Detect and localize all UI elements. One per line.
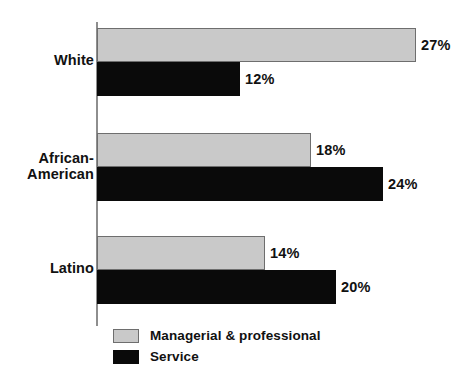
bar-african-american-managerial [97, 133, 311, 167]
bar-white-service [97, 62, 240, 96]
legend-swatch-service-icon [113, 350, 139, 364]
legend-item-service: Service [113, 346, 321, 367]
legend-item-managerial: Managerial & professional [113, 325, 321, 346]
bar-african-american-service [97, 167, 383, 201]
value-label-latino-service: 20% [341, 279, 371, 295]
bar-latino-managerial [97, 236, 265, 270]
bar-chart: White African- American Latino 27% 12% 1… [0, 0, 465, 383]
value-label-white-service: 12% [245, 71, 275, 87]
legend-label-managerial: Managerial & professional [150, 328, 321, 343]
chart-legend: Managerial & professional Service [113, 325, 321, 367]
value-label-latino-managerial: 14% [270, 245, 300, 261]
value-label-white-managerial: 27% [421, 37, 451, 53]
bar-white-managerial [97, 28, 416, 62]
legend-label-service: Service [150, 349, 199, 364]
category-label-white: White [54, 52, 94, 68]
bar-latino-service [97, 270, 336, 304]
category-label-latino: Latino [50, 260, 94, 276]
legend-swatch-managerial-icon [113, 329, 139, 343]
value-label-african-american-managerial: 18% [316, 142, 346, 158]
category-label-african-american: African- American [27, 150, 94, 182]
value-label-african-american-service: 24% [388, 176, 418, 192]
